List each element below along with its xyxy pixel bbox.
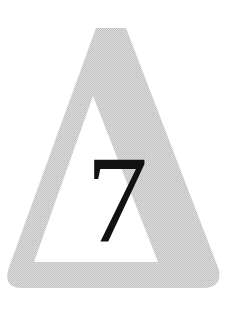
triangle-sign: 7 [0, 0, 237, 310]
sign-numeral: 7 [84, 146, 150, 256]
